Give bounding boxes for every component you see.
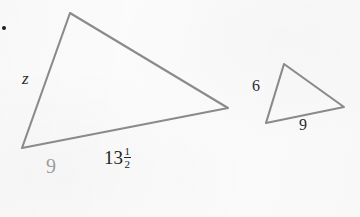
figure-canvas: z 9 13 1 2 6 9 [0,0,360,217]
small-triangle-label-6: 6 [252,78,260,94]
triangles-figure [0,0,360,217]
small-triangle-label-9: 9 [299,117,307,133]
mixed-number-whole-part: 13 [104,148,123,167]
fraction-denominator: 2 [124,157,132,170]
large-triangle-label-13-and-a-half: 13 1 2 [104,145,131,169]
fraction-numerator: 1 [124,146,132,158]
large-triangle-label-9: 9 [46,156,56,176]
large-triangle-label-z: z [22,70,29,87]
mixed-number: 13 1 2 [104,145,131,169]
small-triangle-outline [266,64,344,123]
mixed-number-fraction: 1 2 [124,146,132,170]
large-triangle-outline [22,13,228,148]
